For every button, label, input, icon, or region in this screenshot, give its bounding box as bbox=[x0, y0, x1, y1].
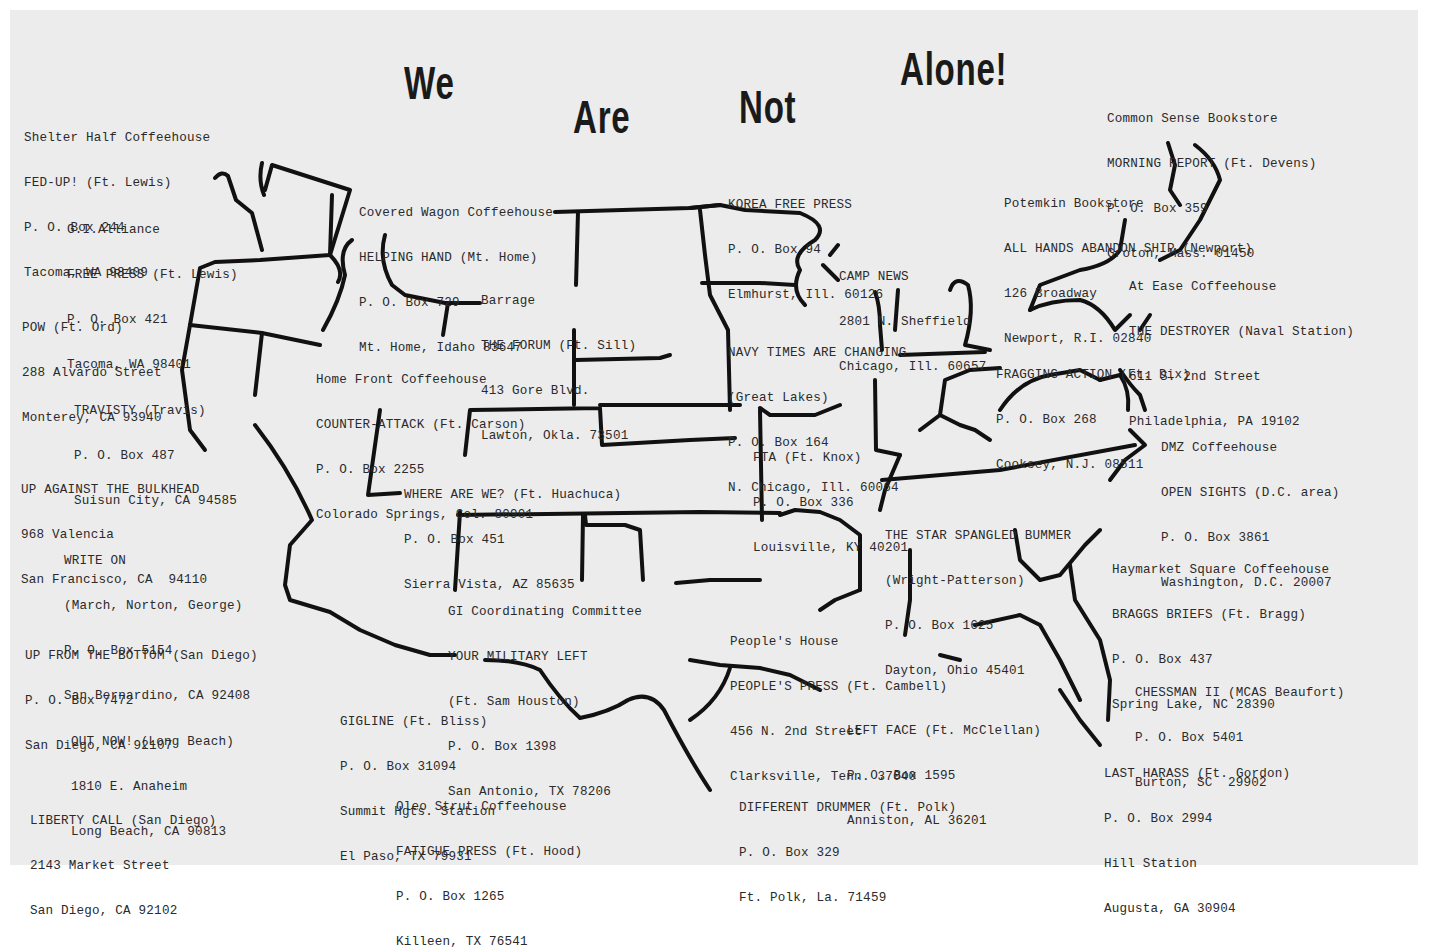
address-line: UP FROM THE BOTTOM (San Diego) bbox=[25, 649, 258, 664]
address-line: Barrage bbox=[481, 294, 636, 309]
address-line: TRAVISTY (Travis) bbox=[74, 404, 237, 419]
address-line: OUT NOW! (Long Beach) bbox=[71, 735, 234, 750]
address-line: GIGLINE (Ft. Bliss) bbox=[340, 715, 495, 730]
address-line: Covered Wagon Coffeehouse bbox=[359, 206, 553, 221]
address-line: FTA (Ft. Knox) bbox=[753, 451, 908, 466]
title-word-not: Not bbox=[739, 80, 796, 134]
address-line: Hill Station bbox=[1104, 857, 1290, 872]
address-line: Home Front Coffeehouse bbox=[316, 373, 533, 388]
address-line: GI Coordinating Committee bbox=[448, 605, 642, 620]
address-line: CAMP NEWS bbox=[839, 270, 986, 285]
address-line: COUNTER-ATTACK (Ft. Carson) bbox=[316, 418, 533, 433]
address-line: P. O. Box 2994 bbox=[1104, 812, 1290, 827]
address-line: Common Sense Bookstore bbox=[1107, 112, 1316, 127]
title-word-alone: Alone! bbox=[900, 42, 1007, 96]
address-line: (Great Lakes) bbox=[728, 391, 906, 406]
address-last-harass: LAST HARASS (Ft. Gordon) P. O. Box 2994 … bbox=[1104, 737, 1290, 932]
title-word-are: Are bbox=[573, 90, 630, 144]
address-line: FATIGUE PRESS (Ft. Hood) bbox=[396, 845, 582, 860]
address-line: FRAGGING ACTION (Ft. Dix) bbox=[996, 368, 1190, 383]
address-line: P. O. Box 329 bbox=[739, 846, 956, 861]
address-line: FED-UP! (Ft. Lewis) bbox=[24, 176, 210, 191]
address-line: Killeen, TX 76541 bbox=[396, 935, 582, 950]
address-line: WRITE ON bbox=[64, 554, 250, 569]
address-line: Shelter Half Coffeehouse bbox=[24, 131, 210, 146]
title-word-we: We bbox=[404, 56, 455, 110]
address-line: THE STAR SPANGLED BUMMER bbox=[885, 529, 1071, 544]
address-line: Oleo Strut Coffeehouse bbox=[396, 800, 582, 815]
address-liberty-call: LIBERTY CALL (San Diego) 2143 Market Str… bbox=[30, 784, 216, 934]
address-different-drummer: DIFFERENT DRUMMER (Ft. Polk) P. O. Box 3… bbox=[739, 771, 956, 921]
address-line: OPEN SIGHTS (D.C. area) bbox=[1161, 486, 1339, 501]
address-line: BRAGGS BRIEFS (Ft. Bragg) bbox=[1112, 608, 1329, 623]
address-line: 2143 Market Street bbox=[30, 859, 216, 874]
address-line: P. O. Box 1265 bbox=[396, 890, 582, 905]
address-line: Potemkin Bookstore bbox=[1004, 197, 1252, 212]
address-line: KOREA FREE PRESS bbox=[728, 198, 883, 213]
address-line: POW (Ft. Ord) bbox=[22, 321, 162, 336]
address-line: San Diego, CA 92102 bbox=[30, 904, 216, 919]
address-line: People's House bbox=[730, 635, 947, 650]
address-line: DIFFERENT DRUMMER (Ft. Polk) bbox=[739, 801, 956, 816]
address-line: G.I.Alliance bbox=[67, 223, 238, 238]
address-line: P. O. Box 451 bbox=[404, 533, 621, 548]
address-line: At Ease Coffeehouse bbox=[1129, 280, 1354, 295]
address-line: Ft. Polk, La. 71459 bbox=[739, 891, 956, 906]
address-line: LAST HARASS (Ft. Gordon) bbox=[1104, 767, 1290, 782]
address-line: Augusta, GA 30904 bbox=[1104, 902, 1290, 917]
address-line: UP AGAINST THE BULKHEAD bbox=[21, 483, 207, 498]
address-line: (March, Norton, George) bbox=[64, 599, 250, 614]
address-line: WHERE ARE WE? (Ft. Huachuca) bbox=[404, 488, 621, 503]
address-line: PEOPLE'S PRESS (Ft. Cambell) bbox=[730, 680, 947, 695]
address-line: FREE PRESS (Ft. Lewis) bbox=[67, 268, 238, 283]
address-oleo-strut: Oleo Strut Coffeehouse FATIGUE PRESS (Ft… bbox=[396, 770, 582, 951]
address-line: YOUR MILITARY LEFT bbox=[448, 650, 642, 665]
address-line: (Wright-Patterson) bbox=[885, 574, 1071, 589]
address-line: Haymarket Square Coffeehouse bbox=[1112, 563, 1329, 578]
address-line: LEFT FACE (Ft. McClellan) bbox=[847, 724, 1041, 739]
address-line: LIBERTY CALL (San Diego) bbox=[30, 814, 216, 829]
address-line: DMZ Coffeehouse bbox=[1161, 441, 1339, 456]
address-line: NAVY TIMES ARE CHANGING bbox=[728, 346, 906, 361]
address-line: CHESSMAN II (MCAS Beaufort) bbox=[1135, 686, 1344, 701]
